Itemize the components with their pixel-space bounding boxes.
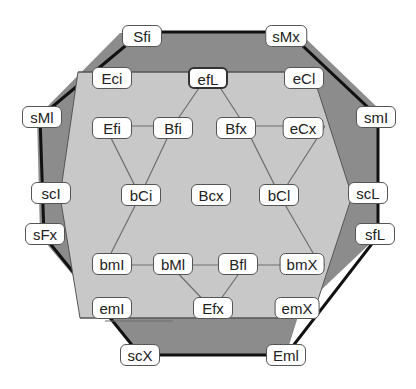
node-emX[interactable]: emX [275, 297, 320, 319]
node-sMx[interactable]: sMx [265, 25, 307, 47]
node-bmI[interactable]: bmI [92, 253, 132, 275]
node-eCx[interactable]: eCx [283, 117, 324, 139]
node-sFx[interactable]: sFx [25, 223, 65, 245]
node-bmX[interactable]: bmX [280, 253, 325, 275]
node-Sfi[interactable]: Sfi [122, 25, 162, 47]
node-Efi[interactable]: Efi [92, 117, 132, 139]
node-bCl[interactable]: bCl [259, 184, 299, 206]
node-sMl[interactable]: sMl [22, 106, 62, 128]
node-emI[interactable]: emI [92, 297, 132, 319]
node-bCi[interactable]: bCi [121, 184, 161, 206]
node-Bfi[interactable]: Bfi [153, 117, 193, 139]
node-scI[interactable]: scI [31, 182, 71, 204]
node-scX[interactable]: scX [120, 344, 160, 366]
node-efL[interactable]: efL [188, 67, 228, 89]
node-Bfx[interactable]: Bfx [216, 117, 256, 139]
node-Eml[interactable]: Eml [266, 344, 306, 366]
node-Eci[interactable]: Eci [92, 67, 132, 89]
node-bMl[interactable]: bMl [153, 253, 193, 275]
node-smI[interactable]: smI [356, 106, 396, 128]
node-Bfl[interactable]: Bfl [218, 253, 258, 275]
node-sfL[interactable]: sfL [355, 223, 395, 245]
node-eCl[interactable]: eCl [284, 67, 324, 89]
node-Bcx[interactable]: Bcx [191, 184, 231, 206]
node-Efx[interactable]: Efx [193, 297, 233, 319]
node-scL[interactable]: scL [348, 182, 388, 204]
